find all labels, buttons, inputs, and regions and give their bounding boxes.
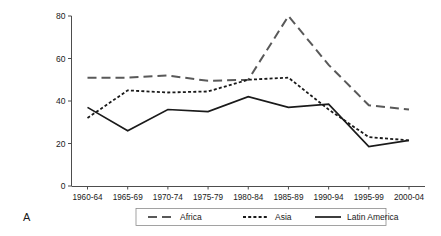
y-tick-label: 60	[56, 54, 66, 64]
x-tick-label: 2000-04	[394, 193, 424, 202]
legend-label: Latin America	[347, 212, 399, 222]
x-tick-label: 1975-79	[193, 193, 223, 202]
y-tick-marks	[68, 16, 72, 186]
data-series-group	[88, 16, 410, 147]
x-tick-label: 1995-99	[354, 193, 384, 202]
series-line-latin-america	[88, 97, 410, 147]
y-tick-label: 0	[61, 181, 66, 191]
y-tick-label: 40	[56, 96, 66, 106]
x-tick-label: 1960-64	[72, 193, 102, 202]
panel-label: A	[23, 211, 31, 223]
x-tick-label: 1985-89	[273, 193, 303, 202]
x-axis-tick-labels: 1960-641965-691970-741975-791980-841985-…	[72, 193, 424, 202]
x-tick-label: 1970-74	[153, 193, 183, 202]
x-tick-label: 1990-94	[314, 193, 344, 202]
series-line-asia	[88, 78, 410, 141]
series-line-africa	[88, 16, 410, 110]
legend-label: Asia	[275, 212, 292, 222]
plot-area	[68, 16, 425, 190]
figure-panel-a: 020406080 1960-641965-691970-741975-7919…	[0, 0, 441, 236]
legend-label: Africa	[180, 212, 202, 222]
line-chart: 020406080 1960-641965-691970-741975-7919…	[0, 0, 441, 236]
y-axis-tick-labels: 020406080	[56, 11, 66, 191]
x-tick-label: 1980-84	[233, 193, 263, 202]
y-tick-label: 20	[56, 139, 66, 149]
legend: AfricaAsiaLatin America	[136, 209, 399, 226]
y-tick-label: 80	[56, 11, 66, 21]
x-tick-label: 1965-69	[113, 193, 143, 202]
